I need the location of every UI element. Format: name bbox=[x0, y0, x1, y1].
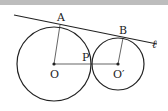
geometry-diagram: A B P O O′ ℓ bbox=[0, 0, 168, 111]
segment-oa bbox=[54, 25, 60, 64]
segment-o-prime-b bbox=[118, 38, 123, 64]
point-o bbox=[52, 62, 55, 65]
label-o: O bbox=[50, 68, 59, 81]
label-o-prime: O′ bbox=[113, 68, 125, 81]
point-o-prime bbox=[116, 62, 119, 65]
label-p: P bbox=[82, 51, 90, 64]
label-b: B bbox=[119, 24, 127, 37]
label-a: A bbox=[56, 11, 66, 24]
tangent-line-l bbox=[14, 15, 157, 44]
label-line-l: ℓ bbox=[152, 38, 157, 51]
